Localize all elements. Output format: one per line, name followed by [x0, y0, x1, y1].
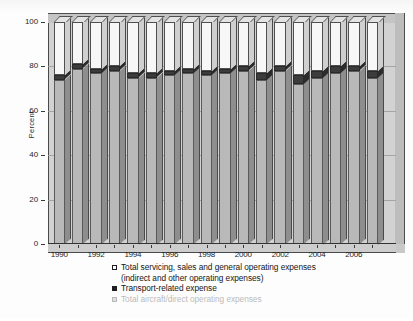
chart-legend: Total servicing, sales and general opera…: [112, 262, 412, 305]
y-axis-tick-mark: [41, 66, 45, 67]
bar-segment-servicing: [311, 22, 322, 71]
bar-side-face: [175, 70, 181, 244]
bar-side-face: [139, 72, 145, 244]
x-axis-tick-mark: [170, 245, 171, 248]
bar-side-face: [83, 63, 89, 244]
bar-segment-transport: [109, 66, 120, 70]
x-axis-tick-label: 2006: [339, 250, 369, 259]
bar-segment-transport: [127, 73, 138, 77]
x-axis-tick-mark: [151, 245, 152, 248]
x-axis-tick-mark: [280, 245, 281, 248]
bar-group: [164, 22, 175, 244]
y-axis-tick-label: 80: [12, 61, 38, 70]
x-axis-tick-mark: [354, 245, 355, 248]
bar-segment-transport: [238, 66, 249, 70]
x-axis-tick-label: 1998: [192, 250, 222, 259]
bar-segment-aircraft: [109, 71, 120, 244]
bar-side-face: [249, 17, 255, 67]
bar-side-face: [286, 65, 292, 244]
bar-side-face: [120, 17, 126, 67]
bar-segment-aircraft: [238, 71, 249, 244]
bar-segment-transport: [72, 64, 83, 68]
legend-label-transport: Transport-related expense: [121, 283, 217, 293]
bar-segment-aircraft: [330, 73, 341, 244]
bar-segment-servicing: [219, 22, 230, 69]
x-axis-tick-mark: [299, 245, 300, 248]
bar-side-face: [194, 17, 200, 69]
x-axis-tick-mark: [225, 245, 226, 248]
bar-segment-transport: [54, 75, 65, 79]
x-axis-tick-mark: [59, 245, 60, 248]
bar-segment-aircraft: [127, 78, 138, 245]
legend-label-aircraft: Total aircraft/direct operating expenses: [121, 294, 262, 304]
x-axis-tick-mark: [262, 245, 263, 248]
x-axis-tick-label: 1990: [44, 250, 74, 259]
bar-segment-servicing: [146, 22, 157, 73]
bar-segment-servicing: [348, 22, 359, 66]
x-axis-tick-mark: [372, 245, 373, 248]
bar-segment-servicing: [109, 22, 120, 66]
bar-segment-servicing: [54, 22, 65, 75]
y-axis-tick-label: 0: [12, 239, 38, 248]
bar-group: [201, 22, 212, 244]
bar-segment-servicing: [127, 22, 138, 73]
bar-segment-aircraft: [201, 75, 212, 244]
plot-area: [48, 22, 396, 244]
bar-group: [274, 22, 285, 244]
bar-segment-servicing: [256, 22, 267, 73]
open-square-icon: [112, 265, 117, 270]
solid-square-icon: [112, 286, 117, 291]
bar-segment-aircraft: [182, 73, 193, 244]
bar-segment-transport: [274, 66, 285, 70]
x-axis-tick-label: 1992: [81, 250, 111, 259]
y-axis-tick-mark: [41, 200, 45, 201]
scan-artifact-band: [0, 0, 413, 12]
bar-side-face: [360, 65, 366, 244]
x-axis-tick-mark: [243, 245, 244, 248]
bar-segment-aircraft: [219, 73, 230, 244]
bar-segment-servicing: [72, 22, 83, 64]
x-axis-tick-label: 2004: [302, 250, 332, 259]
bar-segment-transport: [256, 73, 267, 80]
bar-side-face: [304, 79, 310, 244]
bar-group: [238, 22, 249, 244]
bar-segment-transport: [182, 69, 193, 73]
legend-item-transport: Transport-related expense: [112, 283, 412, 293]
chart-figure: Percent 100806040200 1990199219941996199…: [0, 0, 413, 321]
x-axis-tick-mark: [317, 245, 318, 248]
bar-segment-transport: [219, 69, 230, 73]
x-axis-tick-label: 2000: [228, 250, 258, 259]
bar-side-face: [231, 68, 237, 244]
bar-segment-transport: [164, 71, 175, 75]
y-axis-tick-mark: [41, 155, 45, 156]
bar-side-face: [323, 17, 329, 71]
bar-segment-transport: [146, 73, 157, 77]
bar-segment-aircraft: [311, 78, 322, 245]
bar-group: [72, 22, 83, 244]
bar-side-face: [286, 17, 292, 67]
bar-side-face: [341, 68, 347, 244]
bar-segment-aircraft: [54, 80, 65, 244]
bar-segment-transport: [330, 66, 341, 73]
bar-side-face: [249, 65, 255, 244]
bar-group: [348, 22, 359, 244]
bar-side-face: [194, 68, 200, 244]
bar-group: [293, 22, 304, 244]
bar-segment-aircraft: [164, 75, 175, 244]
x-axis-tick-mark: [188, 245, 189, 248]
bar-side-face: [267, 74, 273, 244]
x-axis-tick-mark: [78, 245, 79, 248]
bar-side-face: [304, 17, 310, 76]
legend-label-servicing: Total servicing, sales and general opera…: [121, 262, 316, 272]
bar-side-face: [341, 17, 347, 67]
x-axis-tick-mark: [96, 245, 97, 248]
bar-segment-servicing: [330, 22, 341, 66]
x-axis-line: [48, 243, 396, 244]
bar-side-face: [212, 17, 218, 71]
grey-square-icon: [112, 297, 117, 302]
bar-group: [127, 22, 138, 244]
bar-side-face: [139, 17, 145, 73]
bar-segment-aircraft: [72, 69, 83, 244]
legend-item-aircraft: Total aircraft/direct operating expenses: [112, 294, 412, 304]
x-axis-tick-label: 1996: [155, 250, 185, 259]
